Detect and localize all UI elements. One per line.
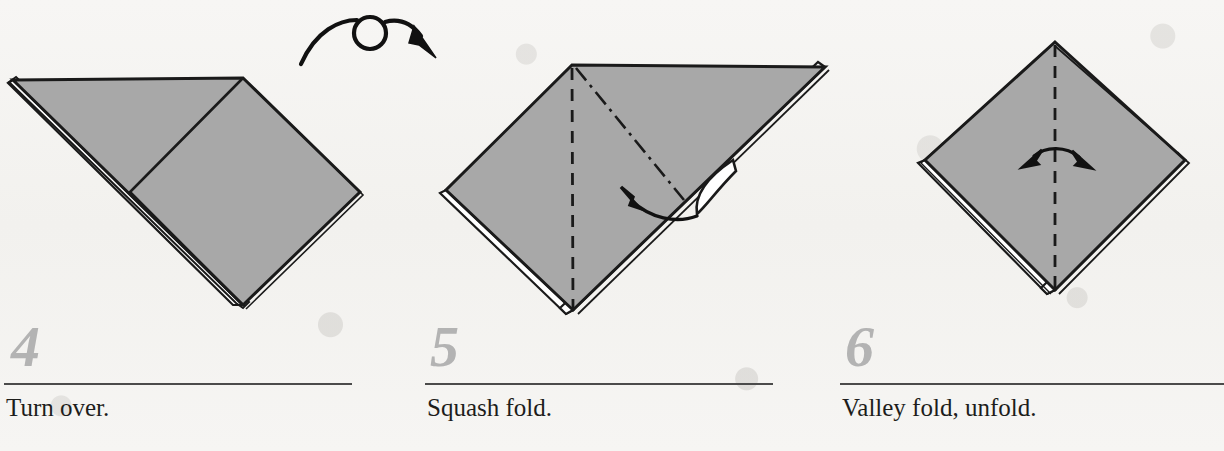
origami-instruction-page: 4 Turn over. 5 Squas (0, 0, 1224, 451)
paper-silhouette (925, 42, 1185, 290)
step-divider-6 (840, 383, 1224, 385)
figure-diamond-square (0, 0, 1224, 330)
step-panel-6: 6 Valley fold, unfold. (0, 0, 1224, 451)
step-number-6: 6 (845, 318, 874, 376)
step-caption-6: Valley fold, unfold. (842, 394, 1036, 422)
